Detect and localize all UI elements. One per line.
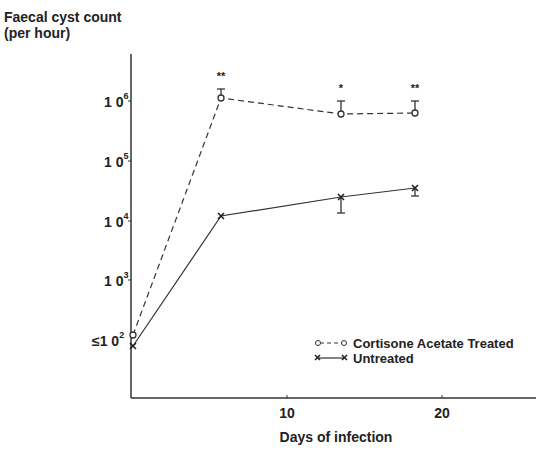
legend-label-cortisone: Cortisone Acetate Treated	[353, 336, 514, 351]
legend-label-untreated: Untreated	[353, 351, 414, 366]
series-cortisone: ** * **	[130, 70, 420, 338]
circle-marker-icon	[338, 111, 344, 117]
y-tick-1e3: 1 03	[104, 270, 128, 289]
legend-item-untreated: Untreated	[315, 351, 414, 366]
x-tick-20: 20	[434, 405, 450, 421]
chart: Faecal cyst count (per hour) 1 06 1 05 1…	[0, 0, 557, 461]
y-tick-1e5: 1 05	[104, 151, 128, 170]
significance-day18: **	[411, 82, 420, 94]
y-tick-1e2: ≤1 02	[92, 330, 124, 349]
circle-marker-icon	[130, 332, 136, 338]
series-untreated	[130, 185, 419, 349]
circle-marker-icon	[342, 341, 347, 346]
circle-marker-icon	[412, 110, 418, 116]
circle-marker-icon	[218, 95, 224, 101]
x-tick-10: 10	[279, 405, 295, 421]
legend-item-cortisone: Cortisone Acetate Treated	[316, 336, 514, 351]
circle-marker-icon	[316, 341, 321, 346]
y-tick-1e6: 1 06	[104, 91, 128, 110]
significance-day6: **	[217, 70, 226, 82]
y-tick-1e4: 1 04	[104, 211, 128, 230]
y-axis-label-line2: (per hour)	[4, 25, 70, 41]
significance-day13: *	[339, 82, 344, 94]
legend: Cortisone Acetate Treated Untreated	[315, 336, 514, 366]
y-tick-labels: 1 06 1 05 1 04 1 03 ≤1 02	[92, 91, 128, 349]
x-axis-label: Days of infection	[280, 429, 393, 445]
y-axis-label-line1: Faecal cyst count	[4, 9, 122, 25]
